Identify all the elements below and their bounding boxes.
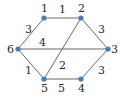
node-label-5: 5	[41, 82, 48, 95]
edge-weight-1-2: 1	[59, 3, 66, 16]
node-4	[78, 76, 83, 81]
node-label-1: 1	[41, 2, 48, 15]
graph-diagram: 13324153 123456	[0, 0, 123, 100]
node-label-2: 2	[78, 2, 85, 15]
graph-svg: 13324153 123456	[0, 0, 123, 100]
edge-weight-6-3: 4	[39, 36, 46, 49]
edge-weight-6-5: 1	[25, 64, 32, 77]
edge-weight-3-4: 3	[98, 64, 105, 77]
node-label-6: 6	[7, 43, 14, 56]
node-2	[78, 15, 83, 20]
edge-weight-2-5: 2	[59, 59, 66, 72]
node-6	[15, 46, 20, 51]
node-1	[41, 15, 46, 20]
node-label-4: 4	[78, 82, 85, 95]
edge-weight-5-4: 5	[58, 82, 65, 95]
node-label-3: 3	[111, 43, 118, 56]
node-5	[41, 76, 46, 81]
node-3	[105, 46, 110, 51]
edge-weight-2-3: 3	[98, 23, 105, 36]
edge-weight-1-6: 3	[25, 23, 32, 36]
